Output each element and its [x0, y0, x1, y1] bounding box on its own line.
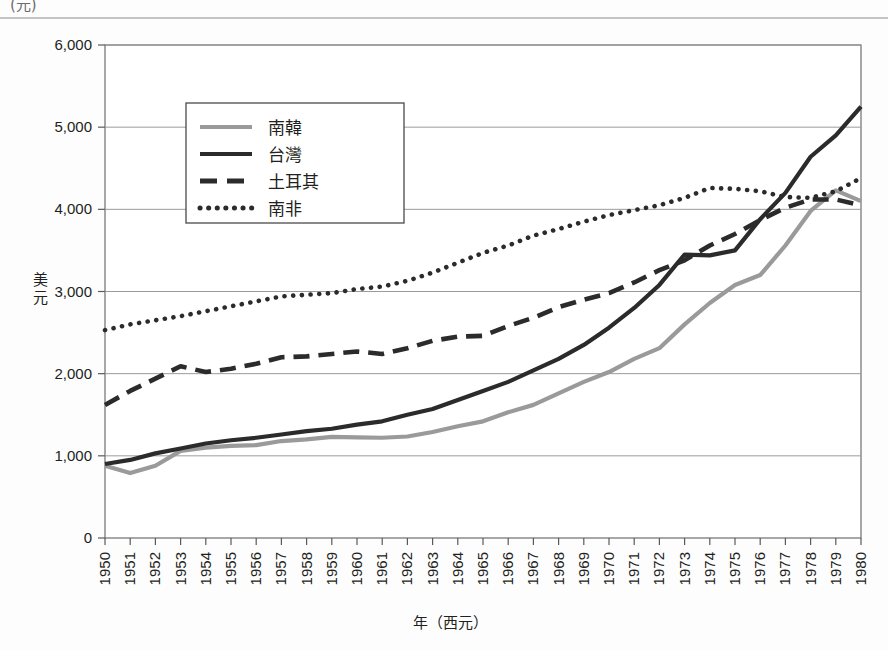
x-tick-label: 1958	[298, 552, 315, 585]
x-tick-label: 1955	[222, 552, 239, 585]
x-tick-label: 1970	[600, 552, 617, 585]
legend-label-1: 台灣	[268, 145, 302, 165]
line-chart-canvas: 01,0002,0003,0004,0005,0006,000 19501951…	[0, 0, 888, 650]
x-axis-title: 年（西元）	[413, 614, 488, 632]
x-tick-label: 1959	[323, 552, 340, 585]
x-axis-tick-labels: 1950195119521953195419551956195719581959…	[96, 552, 869, 585]
x-tick-label: 1962	[398, 552, 415, 585]
x-tick-label: 1980	[852, 552, 869, 585]
x-tick-label: 1950	[96, 552, 113, 585]
x-tick-label: 1956	[247, 552, 264, 585]
x-tick-label: 1972	[650, 552, 667, 585]
x-tick-label: 1966	[499, 552, 516, 585]
x-tick-label: 1965	[474, 552, 491, 585]
x-tick-label: 1967	[524, 552, 541, 585]
x-tick-label: 1960	[348, 552, 365, 585]
y-tick-label: 2,000	[54, 365, 92, 382]
y-tick-label: 4,000	[54, 200, 92, 217]
x-tick-label: 1968	[550, 552, 567, 585]
x-tick-label: 1953	[172, 552, 189, 585]
legend-label-0: 南韓	[268, 118, 302, 138]
x-tick-label: 1957	[272, 552, 289, 585]
x-tick-label: 1975	[726, 552, 743, 585]
y-tick-label: 5,000	[54, 118, 92, 135]
x-tick-label: 1952	[146, 552, 163, 585]
x-tick-label: 1977	[776, 552, 793, 585]
x-tick-label: 1951	[121, 552, 138, 585]
x-tick-label: 1976	[751, 552, 768, 585]
x-tick-label: 1978	[802, 552, 819, 585]
x-tick-label: 1973	[676, 552, 693, 585]
y-axis-title: 美元	[33, 271, 48, 307]
x-tick-label: 1969	[575, 552, 592, 585]
clipped-header-text: (元)	[10, 0, 37, 14]
x-axis-ticks	[105, 538, 861, 545]
x-tick-label: 1961	[373, 552, 390, 585]
x-tick-label: 1979	[827, 552, 844, 585]
x-tick-label: 1964	[449, 552, 466, 585]
y-tick-label: 6,000	[54, 36, 92, 53]
y-axis-ticks	[98, 45, 105, 538]
x-tick-label: 1954	[197, 552, 214, 585]
chart-legend: 南韓台灣土耳其南非	[186, 103, 404, 223]
x-tick-label: 1971	[625, 552, 642, 585]
y-tick-label: 0	[84, 529, 92, 546]
legend-label-2: 土耳其	[268, 172, 319, 192]
legend-label-3: 南非	[268, 199, 302, 219]
y-axis-tick-labels: 01,0002,0003,0004,0005,0006,000	[54, 36, 92, 546]
y-tick-label: 1,000	[54, 447, 92, 464]
x-tick-label: 1974	[701, 552, 718, 585]
y-tick-label: 3,000	[54, 283, 92, 300]
x-tick-label: 1963	[424, 552, 441, 585]
chart-figure: 01,0002,0003,0004,0005,0006,000 19501951…	[0, 0, 888, 650]
